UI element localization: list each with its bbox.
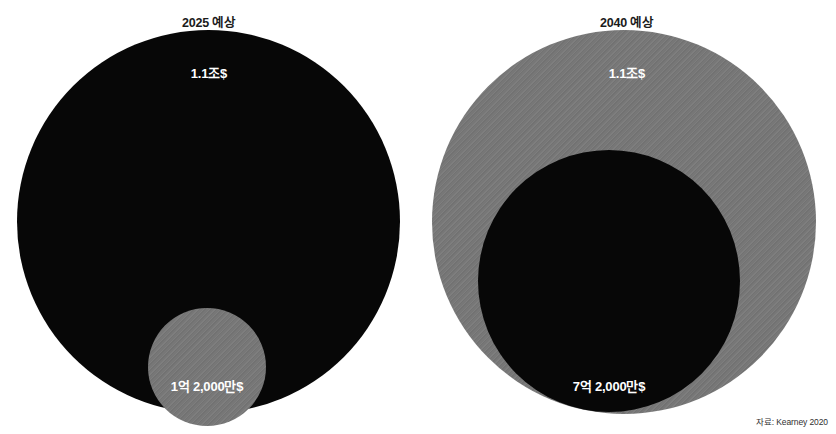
- bubble-2025-sub: [148, 308, 266, 426]
- panel-title-2040: 2040 예상: [418, 12, 836, 31]
- panel-2025: 2025 예상 1.1조$ 1억 2,000만$: [0, 0, 418, 434]
- source-note: 자료: Kearney 2020: [756, 415, 828, 427]
- bubble-chart-infographic: 2025 예상 1.1조$ 1억 2,000만$ 2040 예상 1.1조$ 7…: [0, 0, 836, 434]
- bubble-2040-sub: [478, 150, 740, 412]
- value-label-2025-sub: 1억 2,000만$: [148, 376, 266, 395]
- panel-2040: 2040 예상 1.1조$ 7억 2,000만$: [418, 0, 836, 434]
- value-label-2025-total: 1.1조$: [0, 63, 418, 82]
- value-label-2040-sub: 7억 2,000만$: [478, 376, 740, 395]
- panel-title-2025: 2025 예상: [0, 12, 418, 31]
- value-label-2040-total: 1.1조$: [418, 63, 836, 82]
